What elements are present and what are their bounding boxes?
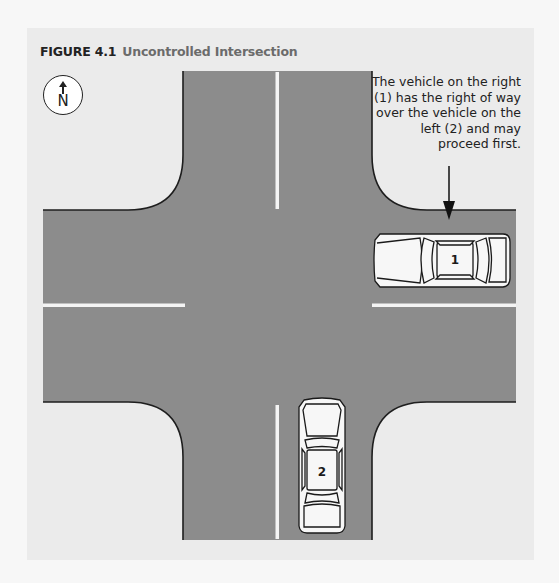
figure-caption: The vehicle on the right (1) has the rig… <box>371 74 521 152</box>
vehicle-2: 2 <box>299 398 345 533</box>
vehicle-2-label: 2 <box>318 465 326 479</box>
vehicle-1-label: 1 <box>451 253 459 267</box>
vehicle-1: 1 <box>374 234 510 287</box>
